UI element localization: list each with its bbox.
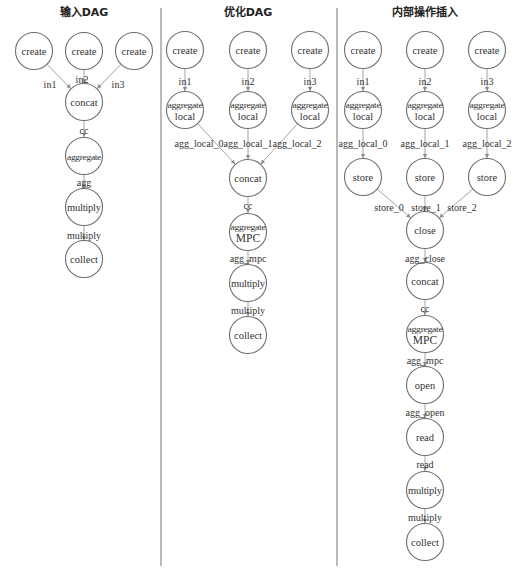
node-collect[interactable]: collect [407,524,444,561]
panel-title-input-dag: 输入DAG [60,5,109,19]
edge-label: store_1 [411,202,440,213]
node-circle [469,92,506,129]
node-label: concat [411,276,438,287]
edge-label: multiply [231,305,265,316]
node-label: collect [234,330,262,341]
edge-label: agg [77,177,91,188]
edge-label: in2 [242,76,255,87]
node-create[interactable]: create [345,32,382,69]
node-multiply[interactable]: multiply [407,472,444,509]
arrowhead-icon [423,87,427,91]
node-label-line2: local [415,111,435,122]
node-label: collect [411,537,439,548]
dag-comparison-diagram: 输入DAG 优化DAG 内部操作插入 createcreatecreatecon… [0,0,524,575]
edge-label: agg_local_0 [175,138,224,149]
node-label-line1: aggregate [231,223,267,232]
node-create[interactable]: create [469,32,506,69]
diagram-canvas: 输入DAG 优化DAG 内部操作插入 createcreatecreatecon… [0,0,524,575]
edge-label: cc [80,125,89,136]
arrowhead-icon [308,87,312,91]
node-label: multiply [231,278,266,289]
edge-label: store_2 [447,202,476,213]
edge-label: agg_local_2 [463,138,512,149]
node-label: store [415,172,436,183]
node-label: multiply [408,485,443,496]
node-label: close [414,225,436,236]
node-create[interactable]: create [16,33,53,70]
node-concat[interactable]: concat [230,160,267,197]
node-multiply[interactable]: multiply [66,189,103,226]
nodes-layer: createcreatecreateconcataggregatemultipl… [16,32,506,561]
node-label-line2: local [477,111,497,122]
node-label: concat [70,97,97,108]
edge-label: in1 [44,79,57,90]
node-aggregate-local[interactable]: aggregatelocal [167,92,204,129]
node-label-line1: aggregate [408,101,444,110]
node-multiply[interactable]: multiply [230,265,267,302]
node-aggregate-local[interactable]: aggregatelocal [407,92,444,129]
edge-label: agg_mpc [407,355,444,366]
node-label: create [297,45,322,56]
node-concat[interactable]: concat [66,84,103,121]
node-open[interactable]: open [407,367,444,404]
edge-labels-layer: in1in2in3ccaggmultiplyin1in2in3agg_local… [44,74,512,523]
node-aggregate-local[interactable]: aggregatelocal [292,92,329,129]
node-collect[interactable]: collect [230,317,267,354]
node-store[interactable]: store [407,159,444,196]
edge-label: read [416,459,433,470]
node-close[interactable]: close [407,212,444,249]
arrowhead-icon [183,87,187,91]
node-store[interactable]: store [345,159,382,196]
node-label-line1: aggregate [231,101,267,110]
node-create[interactable]: create [407,32,444,69]
arrowhead-icon [485,87,489,91]
edge-label: agg_close [405,253,446,264]
node-store[interactable]: store [469,159,506,196]
node-label: multiply [67,202,102,213]
node-aggregate-local[interactable]: aggregatelocal [230,92,267,129]
edge-label: store_0 [374,202,403,213]
node-aggregate-mpc[interactable]: aggregateMPC [407,316,444,353]
node-label: create [412,45,437,56]
node-circle [230,92,267,129]
node-label: create [350,45,375,56]
node-label-line1: aggregate [168,101,204,110]
edge-label: in2 [76,74,89,85]
node-circle [407,92,444,129]
node-create[interactable]: create [66,33,103,70]
edge-label: agg_mpc [230,253,267,264]
node-aggregate-local[interactable]: aggregatelocal [345,92,382,129]
node-create[interactable]: create [230,32,267,69]
node-label: store [477,172,498,183]
panel-titles: 输入DAG 优化DAG 内部操作插入 [60,5,458,19]
panel-title-optimized-dag: 优化DAG [224,5,273,19]
node-label: create [172,45,197,56]
node-label: aggregate [67,153,102,162]
node-aggregate-local[interactable]: aggregatelocal [469,92,506,129]
node-label-line1: aggregate [470,101,506,110]
node-label-line1: aggregate [346,101,382,110]
node-aggregate-mpc[interactable]: aggregateMPC [230,214,267,251]
arrowhead-icon [485,154,489,158]
node-label-line2: local [353,111,373,122]
node-create[interactable]: create [116,33,153,70]
node-label-line1: aggregate [408,325,444,334]
panel-title-internal-ops: 内部操作插入 [392,5,458,19]
node-create[interactable]: create [292,32,329,69]
node-label: collect [70,254,98,265]
node-circle [292,92,329,129]
node-collect[interactable]: collect [66,241,103,278]
edge-label: in1 [179,76,192,87]
edge-label: multiply [67,230,101,241]
node-label-line2: MPC [236,232,261,244]
node-label-line1: aggregate [293,101,329,110]
arrowhead-icon [246,155,250,159]
node-read[interactable]: read [407,419,444,456]
node-label: open [415,380,436,391]
node-create[interactable]: create [167,32,204,69]
edge-label: in3 [304,76,317,87]
edge-label: agg_local_1 [224,138,273,149]
node-concat[interactable]: concat [407,263,444,300]
node-aggregate[interactable]: aggregate [66,138,103,175]
arrowhead-icon [361,154,365,158]
